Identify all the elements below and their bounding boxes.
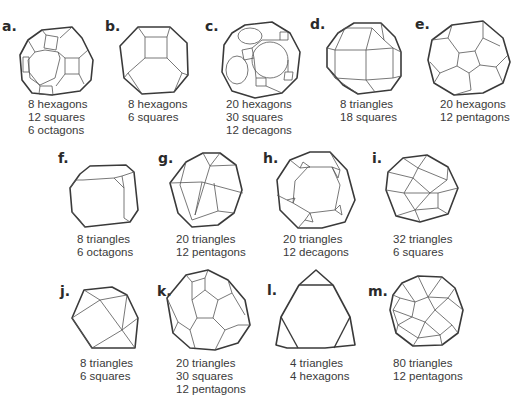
figure-label: a. bbox=[2, 18, 17, 34]
figure-caption: 8 hexagons 12 squares 6 octagons bbox=[28, 98, 87, 137]
figure-caption: 4 triangles 4 hexagons bbox=[290, 357, 349, 383]
figure-label: i. bbox=[372, 150, 382, 166]
figure-label: c. bbox=[205, 18, 219, 34]
figure-caption: 32 triangles 6 squares bbox=[393, 233, 452, 259]
figure-caption: 20 triangles 12 pentagons bbox=[176, 233, 246, 259]
figure-caption: 8 hexagons 6 squares bbox=[128, 98, 187, 124]
figure-caption: 8 triangles 6 squares bbox=[80, 357, 133, 383]
figure-label: l. bbox=[267, 282, 277, 298]
figure-label: j. bbox=[60, 283, 70, 299]
figure-caption: 20 hexagons 12 pentagons bbox=[440, 98, 510, 124]
figure-label: h. bbox=[263, 150, 278, 166]
figure-caption: 20 triangles 30 squares 12 pentagons bbox=[176, 357, 246, 396]
figure-label: b. bbox=[105, 18, 120, 34]
figure-caption: 20 hexagons 30 squares 12 decagons bbox=[226, 98, 292, 137]
figure-label: f. bbox=[58, 150, 69, 166]
snub-dodecahedron-icon bbox=[0, 0, 1, 1]
figure-label: m. bbox=[368, 283, 388, 299]
figure-label: k. bbox=[157, 283, 172, 299]
figure-caption: 8 triangles 18 squares bbox=[340, 98, 397, 124]
figure-caption: 80 triangles 12 pentagons bbox=[393, 357, 463, 383]
figure-label: g. bbox=[158, 150, 173, 166]
figure-label: e. bbox=[415, 16, 430, 32]
figure-label: d. bbox=[310, 16, 325, 32]
figure-caption: 20 triangles 12 decagons bbox=[283, 233, 349, 259]
figure-caption: 8 triangles 6 octagons bbox=[77, 233, 133, 259]
